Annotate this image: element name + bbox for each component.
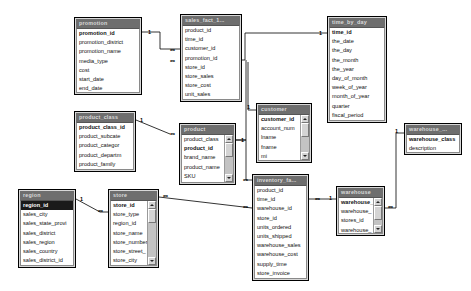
table-store[interactable]: storestore_idstore_typeregion_idstore_na… bbox=[108, 189, 159, 268]
field-row[interactable]: product_name bbox=[182, 163, 224, 172]
scroll-down-arrow-icon[interactable] bbox=[301, 152, 309, 160]
field-row[interactable]: store_cost bbox=[183, 81, 239, 90]
scrollbar-warehouse[interactable] bbox=[373, 198, 382, 233]
field-row[interactable]: product_id bbox=[255, 186, 306, 195]
field-row[interactable]: region_id bbox=[21, 201, 73, 210]
field-row[interactable]: product_id bbox=[183, 26, 239, 35]
scrollbar-thumb[interactable] bbox=[225, 143, 233, 157]
table-sales_fact_1[interactable]: sales_fact_1...product_idtime_idcustomer… bbox=[180, 14, 242, 102]
field-row[interactable]: time_id bbox=[255, 195, 306, 204]
field-row[interactable]: warehouse_cost bbox=[255, 250, 306, 259]
field-row[interactable]: sales_district bbox=[21, 229, 73, 238]
table-time_by_day[interactable]: time_by_daytime_idthe_datethe_daythe_mon… bbox=[327, 16, 387, 123]
field-row[interactable]: quarter bbox=[330, 102, 384, 111]
field-row[interactable]: store_city bbox=[111, 256, 147, 265]
scrollbar-customer[interactable] bbox=[300, 115, 309, 160]
field-row[interactable]: sales_city bbox=[21, 210, 73, 219]
field-row[interactable]: cost bbox=[77, 66, 139, 75]
field-row[interactable]: the_month bbox=[330, 56, 384, 65]
field-row[interactable]: store_sales bbox=[183, 72, 239, 81]
field-row[interactable]: promotion_district bbox=[77, 38, 139, 47]
field-row[interactable]: units_shipped bbox=[255, 232, 306, 241]
scrollbar-thumb[interactable] bbox=[148, 209, 156, 223]
table-title-promotion[interactable]: promotion bbox=[76, 19, 140, 28]
field-row[interactable]: mi bbox=[259, 152, 300, 160]
table-fieldlist-store[interactable]: store_idstore_typeregion_idstore_namesto… bbox=[110, 200, 157, 266]
table-fieldlist-customer[interactable]: customer_idaccount_numlnamefnamemi bbox=[258, 114, 310, 161]
table-fieldlist-inventory_fact[interactable]: product_idtime_idwarehouse_idstore_iduni… bbox=[254, 185, 307, 279]
field-row[interactable]: sales_region bbox=[21, 238, 73, 247]
field-row[interactable]: fname bbox=[259, 143, 300, 152]
table-fieldlist-time_by_day[interactable]: time_idthe_datethe_daythe_monththe_yeard… bbox=[329, 27, 385, 121]
table-title-product[interactable]: product bbox=[181, 125, 234, 134]
field-row[interactable]: time_id bbox=[183, 35, 239, 44]
table-title-sales_fact_1[interactable]: sales_fact_1... bbox=[182, 16, 240, 25]
table-title-warehouse_class[interactable]: warehouse_... bbox=[406, 125, 460, 134]
field-row[interactable]: units_ordered bbox=[255, 223, 306, 232]
field-row[interactable]: warehouse_id bbox=[255, 204, 306, 213]
field-row[interactable]: SKU bbox=[182, 172, 224, 181]
field-row[interactable]: unit_sales bbox=[183, 90, 239, 99]
table-fieldlist-region[interactable]: region_idsales_citysales_state_provisale… bbox=[20, 200, 74, 266]
table-fieldlist-promotion[interactable]: promotion_idpromotion_districtpromotion_… bbox=[76, 28, 140, 93]
field-row[interactable]: store_invoice bbox=[255, 269, 306, 278]
field-row[interactable]: promotion_id bbox=[183, 54, 239, 63]
field-row[interactable]: product_departm bbox=[77, 151, 133, 160]
field-row[interactable]: region_id bbox=[111, 219, 147, 228]
field-row[interactable]: warehouse_sales bbox=[255, 241, 306, 250]
scrollbar-thumb[interactable] bbox=[301, 123, 309, 137]
field-row[interactable]: store_id bbox=[255, 214, 306, 223]
field-row[interactable]: account_num bbox=[259, 124, 300, 133]
scrollbar-store[interactable] bbox=[147, 201, 156, 265]
field-row[interactable]: end_date bbox=[77, 84, 139, 92]
table-product_class[interactable]: product_classproduct_class_idproduct_sub… bbox=[74, 111, 136, 172]
scroll-up-arrow-icon[interactable] bbox=[225, 135, 233, 143]
field-row[interactable]: product_id bbox=[182, 144, 224, 153]
table-product[interactable]: productproduct_classproduct_idbrand_name… bbox=[179, 123, 236, 185]
field-row[interactable]: time_id bbox=[330, 28, 384, 37]
scrollbar-track[interactable] bbox=[148, 223, 156, 257]
relationship-diagram-canvas[interactable]: promotionpromotion_idpromotion_districtp… bbox=[0, 0, 471, 291]
field-row[interactable]: promotion_id bbox=[77, 29, 139, 38]
field-row[interactable]: sales_district_id bbox=[21, 256, 73, 265]
scroll-down-arrow-icon[interactable] bbox=[374, 225, 382, 233]
table-promotion[interactable]: promotionpromotion_idpromotion_districtp… bbox=[74, 17, 142, 95]
field-row[interactable]: the_date bbox=[330, 37, 384, 46]
table-customer[interactable]: customercustomer_idaccount_numlnamefname… bbox=[256, 103, 312, 163]
scroll-down-arrow-icon[interactable] bbox=[225, 174, 233, 182]
field-row[interactable]: product_subcate bbox=[77, 132, 133, 141]
field-row[interactable]: warehouse_class bbox=[407, 135, 459, 144]
field-row[interactable]: description bbox=[407, 144, 459, 152]
scrollbar-thumb[interactable] bbox=[374, 206, 382, 220]
field-row[interactable]: product_class bbox=[182, 135, 224, 144]
field-row[interactable]: store_id bbox=[183, 63, 239, 72]
field-row[interactable]: product_family bbox=[77, 160, 133, 169]
field-row[interactable]: product_class_id bbox=[77, 123, 133, 132]
field-row[interactable]: the_year bbox=[330, 65, 384, 74]
field-row[interactable]: store_id bbox=[111, 201, 147, 210]
field-row[interactable]: product_categor bbox=[77, 141, 133, 150]
field-row[interactable]: the_day bbox=[330, 46, 384, 55]
table-fieldlist-product_class[interactable]: product_class_idproduct_subcateproduct_c… bbox=[76, 122, 134, 170]
field-row[interactable]: store_type bbox=[111, 210, 147, 219]
table-warehouse_class[interactable]: warehouse_...warehouse_classdescription bbox=[404, 123, 462, 155]
table-warehouse[interactable]: warehousewarehouse_warehouse_stores_idwa… bbox=[336, 186, 385, 236]
table-title-inventory_fact[interactable]: inventory_fa... bbox=[254, 176, 307, 185]
field-row[interactable]: fiscal_period bbox=[330, 111, 384, 120]
scroll-up-arrow-icon[interactable] bbox=[374, 198, 382, 206]
table-title-warehouse[interactable]: warehouse bbox=[338, 188, 383, 197]
field-row[interactable]: store_number bbox=[111, 238, 147, 247]
field-row[interactable]: customer_id bbox=[259, 115, 300, 124]
scrollbar-track[interactable] bbox=[301, 137, 309, 152]
table-title-store[interactable]: store bbox=[110, 191, 157, 200]
field-row[interactable]: stores_id bbox=[339, 216, 373, 225]
field-row[interactable]: store_street_ bbox=[111, 247, 147, 256]
field-row[interactable]: media_type bbox=[77, 57, 139, 66]
field-row[interactable]: start_date bbox=[77, 75, 139, 84]
field-row[interactable]: brand_name bbox=[182, 153, 224, 162]
table-fieldlist-product[interactable]: product_classproduct_idbrand_nameproduct… bbox=[181, 134, 234, 183]
table-fieldlist-warehouse[interactable]: warehouse_warehouse_stores_idwarehouse_ bbox=[338, 197, 383, 234]
field-row[interactable]: week_of_year bbox=[330, 83, 384, 92]
table-fieldlist-sales_fact_1[interactable]: product_idtime_idcustomer_idpromotion_id… bbox=[182, 25, 240, 100]
table-title-region[interactable]: region bbox=[20, 191, 74, 200]
